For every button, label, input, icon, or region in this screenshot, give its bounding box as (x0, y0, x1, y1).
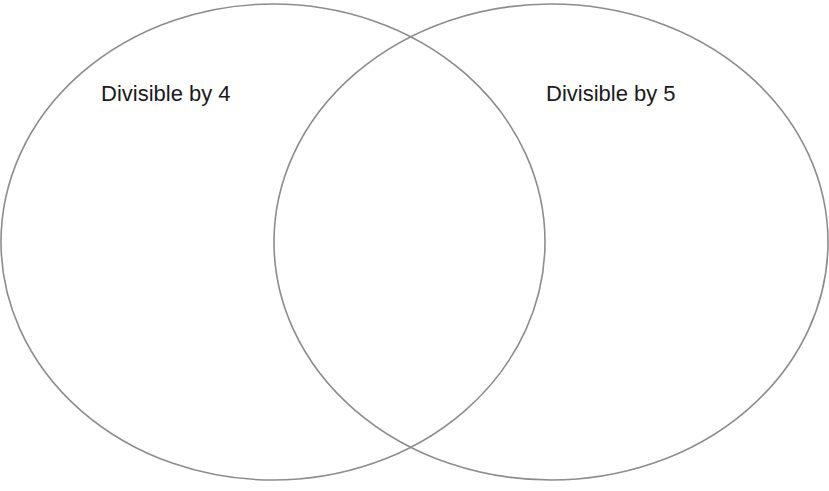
set-b-circle (274, 4, 828, 480)
set-b-label: Divisible by 5 (546, 83, 676, 105)
set-a-circle (1, 4, 545, 480)
venn-diagram: Divisible by 4 Divisible by 5 (0, 0, 829, 491)
set-a-label: Divisible by 4 (101, 83, 231, 105)
venn-diagram-graphic (0, 0, 829, 491)
